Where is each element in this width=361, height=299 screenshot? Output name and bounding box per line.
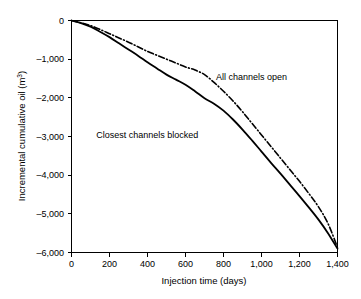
y-axis-title-base: Incremental cumulative oil (m bbox=[16, 78, 27, 202]
x-tick-label: 1,200 bbox=[288, 259, 311, 269]
y-tick-label: –6,000 bbox=[36, 248, 64, 258]
y-tick-label: –2,000 bbox=[36, 93, 64, 103]
x-tick-label: 1,400 bbox=[326, 259, 349, 269]
y-axis-title: Incremental cumulative oil (m3) bbox=[16, 71, 28, 201]
y-axis-ticks bbox=[68, 21, 72, 253]
line-chart: 0 –1,000 –2,000 –3,000 –4,000 –5,000 –6,… bbox=[0, 0, 361, 299]
annotation-closest-channels-blocked: Closest channels blocked bbox=[96, 130, 198, 140]
y-axis-tick-labels: 0 –1,000 –2,000 –3,000 –4,000 –5,000 –6,… bbox=[36, 16, 64, 258]
y-tick-label: –5,000 bbox=[36, 209, 64, 219]
x-tick-label: 800 bbox=[216, 259, 231, 269]
x-tick-label: 400 bbox=[140, 259, 155, 269]
y-tick-label: –1,000 bbox=[36, 54, 64, 64]
x-tick-label: 1,000 bbox=[250, 259, 273, 269]
chart-figure: 0 –1,000 –2,000 –3,000 –4,000 –5,000 –6,… bbox=[0, 0, 361, 299]
y-tick-label: –4,000 bbox=[36, 170, 64, 180]
annotation-all-channels-open: All channels open bbox=[216, 72, 287, 82]
x-tick-label: 600 bbox=[178, 259, 193, 269]
x-tick-label: 200 bbox=[102, 259, 117, 269]
x-axis-ticks bbox=[72, 253, 338, 258]
x-tick-label: 0 bbox=[69, 259, 74, 269]
x-axis-tick-labels: 0 200 400 600 800 1,000 1,200 1,400 bbox=[69, 259, 349, 269]
y-axis-title-close: ) bbox=[16, 71, 27, 74]
x-axis-title: Injection time (days) bbox=[161, 275, 246, 286]
y-tick-label: 0 bbox=[59, 16, 64, 26]
y-tick-label: –3,000 bbox=[36, 132, 64, 142]
